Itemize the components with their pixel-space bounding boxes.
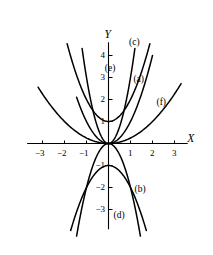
curve-f (38, 84, 181, 144)
y-axis-label: Y (105, 29, 111, 41)
y-tick-label: 2 (101, 95, 106, 104)
curve-label-e: (e) (105, 64, 116, 74)
y-tick-label: 3 (101, 73, 106, 82)
curve-label-b: (b) (135, 185, 146, 195)
y-tick-label: −3 (96, 205, 106, 214)
x-tick-label: −1 (79, 149, 89, 158)
y-tick-label: 1 (101, 117, 106, 126)
y-tick-label: 4 (101, 51, 106, 60)
x-tick-label: 2 (150, 149, 155, 158)
x-tick-label: −3 (35, 149, 45, 158)
parabola-family-figure: Y X (a) (b) (c) (d) (e) (f) −3−2−1123−3−… (0, 0, 213, 255)
curve-label-f: (f) (157, 98, 167, 108)
x-tick-label: −2 (57, 149, 67, 158)
y-tick-label: −2 (96, 183, 106, 192)
curve-label-c: (c) (129, 38, 140, 48)
y-tick-label: −1 (96, 161, 106, 170)
x-axis-label: X (187, 133, 194, 145)
x-tick-label: 1 (128, 149, 133, 158)
x-tick-label: 3 (172, 149, 177, 158)
curve-label-d: (d) (114, 211, 125, 221)
curve-label-a: (a) (133, 75, 144, 85)
